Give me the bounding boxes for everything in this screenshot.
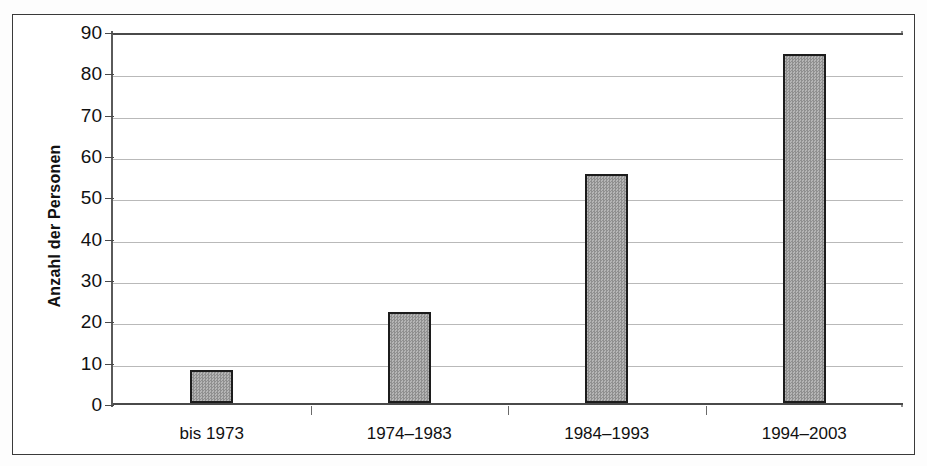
bar-4 xyxy=(783,54,826,403)
y-tick-mark-20 xyxy=(105,322,114,323)
y-tick-mark-40 xyxy=(105,240,114,241)
y-tick-label-70: 70 xyxy=(56,106,102,125)
x-axis-category-label-1: bis 1973 xyxy=(113,424,311,444)
bar-2 xyxy=(388,312,431,403)
y-tick-mark-0 xyxy=(105,405,114,406)
y-tick-label-90: 90 xyxy=(56,23,102,42)
y-tick-label-0: 0 xyxy=(56,395,102,414)
plot-area xyxy=(113,33,903,405)
y-tick-mark-10 xyxy=(105,364,114,365)
y-tick-mark-50 xyxy=(105,198,114,199)
y-tick-mark-30 xyxy=(105,281,114,282)
y-tick-label-60: 60 xyxy=(56,147,102,166)
x-axis-separator-tick-2 xyxy=(508,406,509,415)
y-axis-tick-labels: 9080706050403020100 xyxy=(44,0,102,466)
y-tick-mark-70 xyxy=(105,116,114,117)
y-tick-label-50: 50 xyxy=(56,188,102,207)
y-tick-mark-60 xyxy=(105,157,114,158)
plot-inner xyxy=(113,35,903,403)
x-axis-separator-tick-3 xyxy=(706,406,707,415)
bar-1 xyxy=(190,370,233,403)
y-tick-label-10: 10 xyxy=(56,354,102,373)
y-tick-label-40: 40 xyxy=(56,230,102,249)
y-tick-label-20: 20 xyxy=(56,312,102,331)
x-axis-category-label-2: 1974–1983 xyxy=(311,424,509,444)
y-tick-label-30: 30 xyxy=(56,271,102,290)
x-axis-separator-tick-1 xyxy=(311,406,312,415)
x-axis-category-label-3: 1984–1993 xyxy=(508,424,706,444)
x-axis-category-label-4: 1994–2003 xyxy=(706,424,904,444)
chart-figure: Anzahl der Personen 9080706050403020100 … xyxy=(0,0,927,466)
y-tick-mark-90 xyxy=(105,33,114,34)
y-tick-label-80: 80 xyxy=(56,64,102,83)
bar-3 xyxy=(585,174,628,403)
y-tick-mark-80 xyxy=(105,74,114,75)
